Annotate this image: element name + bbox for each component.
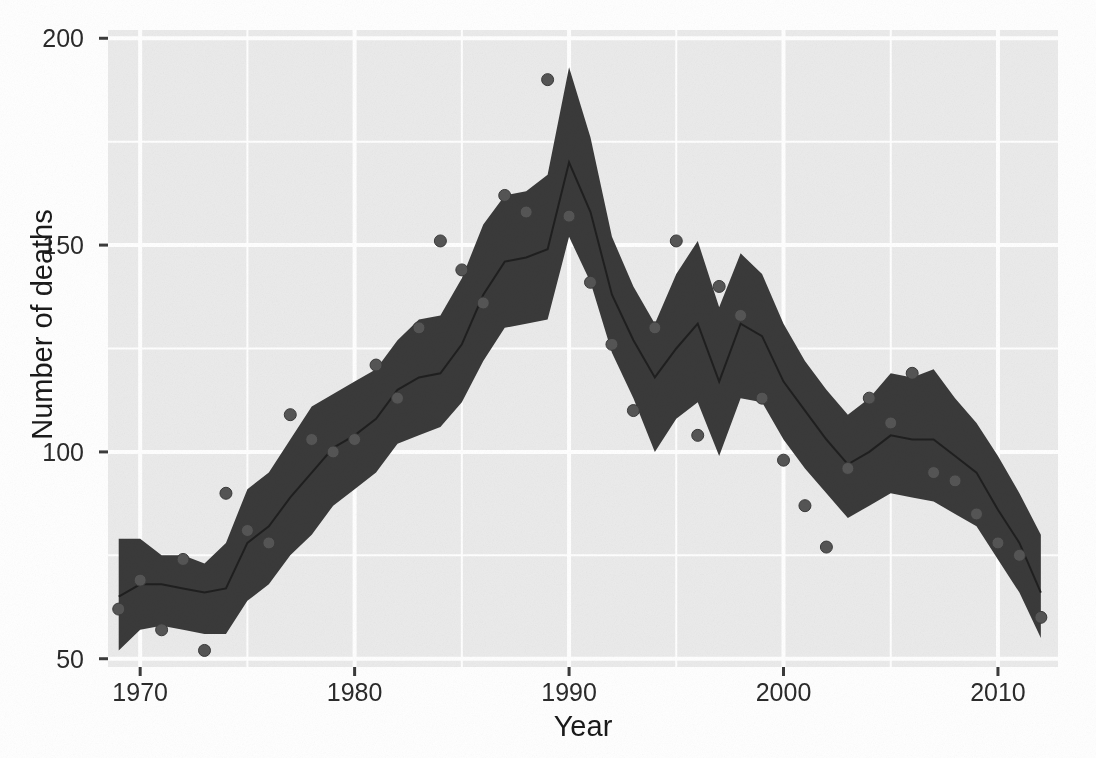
x-tick-label-2010: 2010 <box>970 678 1026 707</box>
x-tick-label-2000: 2000 <box>756 678 812 707</box>
x-tick-label-1970: 1970 <box>112 678 168 707</box>
y-tick-label-50: 50 <box>56 644 84 673</box>
paper-grain-overlay <box>0 0 1096 758</box>
x-tick-label-1980: 1980 <box>327 678 383 707</box>
y-axis-title: Number of deaths <box>26 115 59 535</box>
x-tick-label-1990: 1990 <box>541 678 597 707</box>
y-tick-label-200: 200 <box>42 24 84 53</box>
plot-canvas <box>0 0 1096 758</box>
x-axis-title: Year <box>108 710 1058 743</box>
chart-figure: 200 150 100 50 19701980199020002010 Numb… <box>0 0 1096 758</box>
